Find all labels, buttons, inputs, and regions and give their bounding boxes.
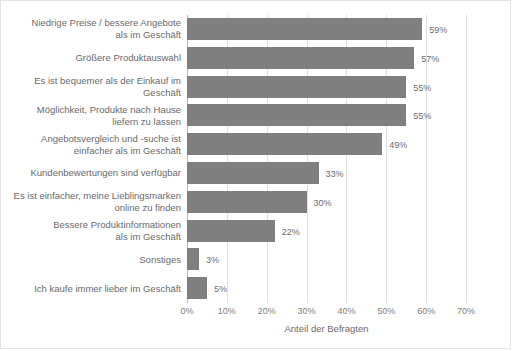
x-tick-label: 40% [337, 306, 355, 316]
category-label: Es ist bequemer als der Einkauf im Gesch… [9, 75, 181, 99]
bar-row: 33% [187, 159, 466, 188]
bar-value-label: 49% [389, 134, 407, 156]
x-tick-label: 50% [377, 306, 395, 316]
bar-row: 30% [187, 188, 466, 217]
bar[interactable] [187, 76, 406, 98]
category-label: Möglichkeit, Produkte nach Hause liefern… [9, 104, 181, 128]
bar[interactable] [187, 220, 275, 242]
bar-value-label: 3% [206, 249, 219, 271]
bar-row: 49% [187, 130, 466, 159]
bar[interactable] [187, 18, 422, 40]
x-tick-label: 70% [457, 306, 475, 316]
x-tick-label: 60% [417, 306, 435, 316]
bar-row: 55% [187, 101, 466, 130]
x-axis-title: Anteil der Befragten [187, 323, 466, 334]
bar[interactable] [187, 248, 199, 270]
category-label: Sonstiges [9, 254, 181, 266]
bar-row: 5% [187, 274, 466, 303]
bar-value-label: 5% [214, 278, 227, 300]
category-label: Ich kaufe immer lieber im Geschäft [9, 283, 181, 295]
x-tick-label: 10% [218, 306, 236, 316]
bar-value-label: 22% [282, 221, 300, 243]
bar-value-label: 55% [413, 77, 431, 99]
bar[interactable] [187, 104, 406, 126]
category-label: Es ist einfacher, meine Lieblingsmarken … [9, 190, 181, 214]
bar-row: 22% [187, 217, 466, 246]
x-tick-label: 0% [180, 306, 193, 316]
x-tick-label: 30% [298, 306, 316, 316]
bar-value-label: 59% [429, 19, 447, 41]
bar-row: 55% [187, 73, 466, 102]
chart-frame: Niedrige Preise / bessere Angebote als i… [0, 0, 511, 349]
bar-row: 57% [187, 44, 466, 73]
category-label: Bessere Produktinformationen als im Gesc… [9, 219, 181, 243]
bar-value-label: 57% [421, 48, 439, 70]
bar[interactable] [187, 277, 207, 299]
gridline-70% [466, 15, 467, 303]
bar-value-label: 33% [326, 163, 344, 185]
bar[interactable] [187, 133, 382, 155]
bar[interactable] [187, 47, 414, 69]
bar-row: 3% [187, 245, 466, 274]
category-label: Angebotsvergleich und -suche ist einfach… [9, 133, 181, 157]
category-label: Kundenbewertungen sind verfügbar [9, 167, 181, 179]
bar-row: 59% [187, 15, 466, 44]
bar-value-label: 55% [413, 105, 431, 127]
bar-value-label: 30% [314, 192, 332, 214]
x-axis-ticks: 0%10%20%30%40%50%60%70% [187, 306, 466, 322]
category-axis-labels: Niedrige Preise / bessere Angebote als i… [9, 15, 181, 303]
category-label: Größere Produktauswahl [9, 52, 181, 64]
plot-area: 59%57%55%55%49%33%30%22%3%5% [187, 15, 466, 303]
bar[interactable] [187, 162, 319, 184]
horizontal-bar-chart: Niedrige Preise / bessere Angebote als i… [1, 1, 513, 351]
category-label: Niedrige Preise / bessere Angebote als i… [9, 17, 181, 41]
bar[interactable] [187, 191, 307, 213]
x-tick-label: 20% [258, 306, 276, 316]
